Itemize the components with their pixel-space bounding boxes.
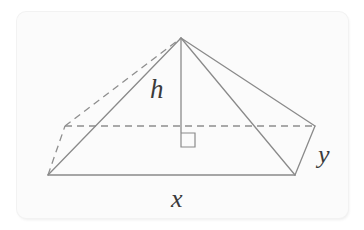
edge-base-right [295, 126, 315, 175]
edge-lateral-back-left [65, 38, 181, 126]
edge-base-left [48, 126, 65, 175]
label-base-length-x: x [171, 186, 183, 212]
label-base-width-y: y [318, 142, 330, 168]
right-angle-square [181, 133, 195, 147]
edge-lateral-front-right [181, 38, 295, 175]
edge-lateral-back-right [181, 38, 315, 126]
edge-lateral-front-left [48, 38, 181, 175]
figure-root: h x y [0, 0, 364, 230]
label-height-h: h [150, 76, 164, 103]
